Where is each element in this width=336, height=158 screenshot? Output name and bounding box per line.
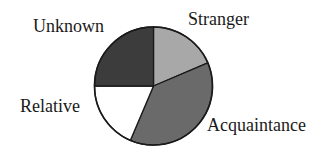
- label-acquaintance: Acquaintance: [207, 116, 306, 134]
- label-relative: Relative: [20, 97, 80, 115]
- label-unknown: Unknown: [33, 17, 104, 35]
- pie-chart: Unknown Stranger Relative Acquaintance: [0, 0, 336, 158]
- label-stranger: Stranger: [188, 10, 249, 28]
